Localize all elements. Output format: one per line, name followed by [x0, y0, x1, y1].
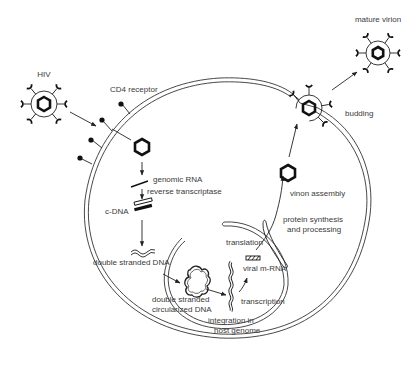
transcription-label: transcription — [241, 297, 285, 306]
cd4-receptors — [77, 101, 131, 164]
circularized-dna — [185, 266, 210, 297]
genomic-rna-label: genomic RNA — [153, 175, 203, 184]
mature-virion-label: mature virion — [355, 15, 401, 24]
c-dna-strands — [134, 198, 152, 211]
hiv-label: HIV — [37, 70, 51, 79]
cd4-receptor-knob — [77, 155, 82, 160]
integration-label-2: host genome — [214, 326, 261, 335]
hiv-life-cycle-diagram: HIV CD4 receptor genomic RNA reverse tra… — [0, 0, 420, 375]
circularized-dna-label-1: double stranded — [152, 295, 209, 304]
cd4-receptor-knob — [118, 101, 123, 106]
cd4-receptor-knob — [99, 117, 104, 122]
protein-synthesis-label-2: and processing — [287, 225, 341, 234]
double-stranded-dna — [131, 249, 155, 257]
virion-assembly-label: vinon assembly — [290, 189, 345, 198]
c-dna-label: c-DNA — [105, 207, 129, 216]
protein-synthesis-label-1: protein synthesis — [283, 215, 343, 224]
integration-label-1: integration in — [208, 316, 254, 325]
mature-virion — [356, 33, 400, 73]
double-stranded-dna-label: double stranded DNA — [93, 258, 170, 267]
cd4-receptor-knob — [88, 137, 93, 142]
entry-arrow — [70, 112, 96, 126]
budding-label: budding — [345, 109, 373, 118]
translation-label: translation — [226, 238, 263, 247]
viral-mrna-label: viral m-RNA — [243, 264, 287, 273]
circularized-dna-label-2: circularized DNA — [152, 305, 212, 314]
protein-synthesis-er — [263, 220, 288, 268]
transcription-arrow — [239, 278, 247, 292]
genomic-rna-strand — [131, 181, 148, 187]
hiv-virion — [21, 84, 67, 123]
viral-mrna — [246, 256, 260, 260]
nuclear-entry-arrow — [163, 274, 180, 283]
release-arrow — [332, 72, 357, 90]
assembly-to-budding-arrow — [289, 124, 297, 157]
diagram-canvas: HIV CD4 receptor genomic RNA reverse tra… — [0, 0, 420, 375]
reverse-transcriptase-label: reverse transcriptase — [147, 187, 222, 196]
integrated-provirus — [230, 262, 232, 311]
assembled-capsid — [281, 165, 295, 181]
capsid-entered — [135, 139, 149, 155]
cd4-receptor-label: CD4 receptor — [110, 85, 158, 94]
